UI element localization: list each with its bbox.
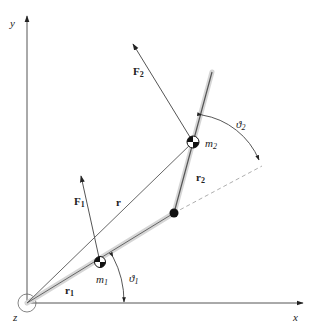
r2-label: r2 <box>196 171 205 185</box>
two-link-arm-diagram: y x z F2 F1 r r1 r2 m1 m2 ϑ1 ϑ2 <box>0 0 318 329</box>
mass-m1-icon <box>95 257 106 268</box>
F1-label: F1 <box>74 195 85 209</box>
theta1-angle-arc <box>113 257 124 302</box>
r1-label: r1 <box>65 284 74 298</box>
r-vector-line <box>27 142 193 303</box>
y-axis-label: y <box>9 17 15 29</box>
r-label: r <box>116 196 121 208</box>
F2-label: F2 <box>133 65 144 79</box>
force-F2-arrow <box>133 44 193 142</box>
theta2-label: ϑ2 <box>236 118 245 132</box>
m2-label: m2 <box>205 137 217 151</box>
mass-m2-icon <box>187 136 199 148</box>
joint-point <box>170 209 179 218</box>
x-axis-label: x <box>292 311 298 323</box>
z-axis-label: z <box>12 311 18 323</box>
force-F1-arrow <box>81 176 100 262</box>
m1-label: m1 <box>96 273 108 287</box>
theta1-label: ϑ1 <box>129 272 138 286</box>
